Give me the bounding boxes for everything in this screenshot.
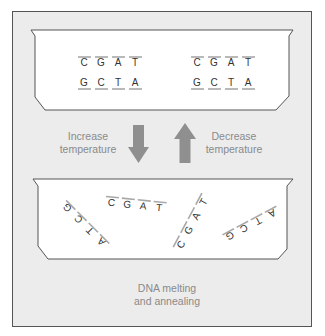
caption-line2: and annealing — [134, 295, 200, 307]
nucleotide-base: T — [155, 202, 162, 214]
nucleotide-base: C — [107, 197, 115, 209]
upper-tray — [31, 30, 293, 110]
nucleotide-base: G — [193, 77, 201, 88]
decrease-label-line2: temperature — [206, 143, 263, 155]
nucleotide-base: C — [210, 77, 217, 88]
nucleotide-base: C — [97, 77, 104, 88]
caption-line1: DNA melting — [138, 282, 197, 294]
nucleotide-base: A — [228, 57, 235, 68]
nucleotide-base: C — [193, 57, 200, 68]
increase-label-line1: Increase — [68, 130, 108, 142]
dna-melting-diagram: CGATGCTA CGATGCTA Increase temperature D… — [0, 0, 325, 336]
nucleotide-base: G — [210, 57, 218, 68]
nucleotide-base: C — [80, 57, 87, 68]
nucleotide-base: A — [245, 77, 252, 88]
nucleotide-base: G — [80, 77, 88, 88]
nucleotide-base: T — [228, 77, 234, 88]
nucleotide-base: T — [132, 57, 138, 68]
nucleotide-base: T — [245, 57, 251, 68]
nucleotide-base: T — [115, 77, 121, 88]
decrease-label-line1: Decrease — [212, 130, 257, 142]
nucleotide-base: A — [132, 77, 139, 88]
nucleotide-base: G — [123, 198, 132, 210]
increase-label-line2: temperature — [60, 143, 117, 155]
nucleotide-base: G — [97, 57, 105, 68]
nucleotide-base: A — [115, 57, 122, 68]
